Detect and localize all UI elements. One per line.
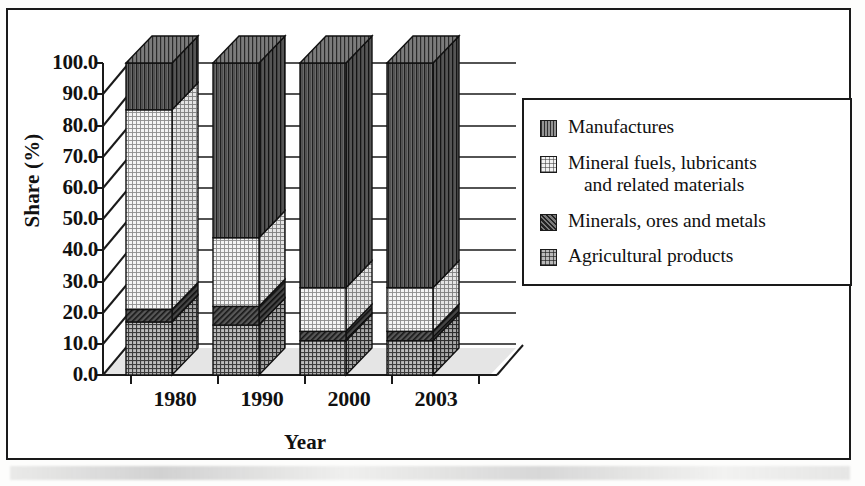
y-tick-10: 10.0 bbox=[14, 333, 98, 354]
legend-swatch-mineral-fuels-icon bbox=[540, 156, 557, 173]
x-tick-1990: 1990 bbox=[219, 386, 305, 412]
legend-swatch-minerals-ores-metals-icon bbox=[540, 214, 557, 231]
x-axis-title: Year bbox=[140, 430, 470, 455]
y-axis-tick-labels: 100.0 90.0 80.0 70.0 60.0 50.0 40.0 30.0… bbox=[0, 0, 98, 400]
y-tick-90: 90.0 bbox=[14, 83, 98, 104]
y-tick-20: 20.0 bbox=[14, 302, 98, 323]
chart-legend: Manufactures Mineral fuels, lubricants a… bbox=[522, 98, 852, 286]
legend-label-manufactures: Manufactures bbox=[568, 116, 674, 139]
legend-item-agricultural-products[interactable]: Agricultural products bbox=[540, 245, 836, 268]
legend-swatch-agricultural-products-icon bbox=[540, 249, 557, 266]
bar-segment bbox=[300, 36, 372, 288]
legend-item-minerals-ores-metals[interactable]: Minerals, ores and metals bbox=[540, 210, 836, 233]
legend-item-manufactures[interactable]: Manufactures bbox=[540, 116, 836, 139]
x-tick-2000: 2000 bbox=[306, 386, 392, 412]
legend-swatch-manufactures-icon bbox=[540, 120, 557, 137]
x-tick-1980: 1980 bbox=[132, 386, 218, 412]
bar-2003[interactable] bbox=[387, 36, 459, 375]
y-tick-0: 0.0 bbox=[14, 364, 98, 385]
legend-label-mineral-fuels: Mineral fuels, lubricants and related ma… bbox=[568, 152, 757, 197]
bar-segment bbox=[126, 83, 198, 310]
bar-series-layer bbox=[126, 36, 459, 375]
legend-label-agricultural-products: Agricultural products bbox=[568, 245, 733, 268]
bar-1980[interactable] bbox=[126, 36, 198, 375]
bar-1990[interactable] bbox=[213, 36, 285, 375]
y-tick-30: 30.0 bbox=[14, 271, 98, 292]
y-axis-title: Share (%) bbox=[20, 111, 45, 251]
bar-2000[interactable] bbox=[300, 36, 372, 375]
y-axis bbox=[96, 63, 129, 375]
y-tick-100: 100.0 bbox=[14, 52, 98, 73]
bar-segment bbox=[213, 36, 285, 238]
x-tick-2003: 2003 bbox=[393, 386, 479, 412]
legend-label-minerals-ores-metals: Minerals, ores and metals bbox=[568, 210, 766, 233]
legend-item-mineral-fuels[interactable]: Mineral fuels, lubricants and related ma… bbox=[540, 152, 836, 197]
bar-segment bbox=[387, 36, 459, 288]
scanned-page: 100.0 90.0 80.0 70.0 60.0 50.0 40.0 30.0… bbox=[0, 0, 865, 486]
